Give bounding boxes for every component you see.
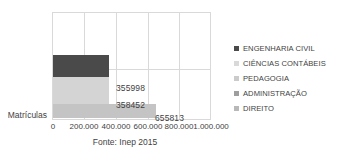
gridline-vertical (179, 13, 180, 119)
x-tick-label: 600.000 (134, 123, 163, 131)
legend-label: ADMINISTRAÇÃO (243, 90, 307, 98)
source-caption: Fonte: Inep 2015 (0, 138, 250, 147)
legend-swatch-icon (234, 46, 239, 51)
bar-ciencias-contabeis (53, 77, 109, 104)
legend-item-engenharia-civil[interactable]: ENGENHARIA CIVIL (234, 41, 337, 56)
x-axis-tick-labels: 0 200.000 400.000 600.000 800.000 1.000.… (0, 123, 337, 135)
legend-label: ENGENHARIA CIVIL (243, 45, 315, 53)
legend-swatch-icon (234, 91, 239, 96)
data-label-engenharia-civil: 355998 (116, 84, 145, 93)
x-tick-label: 1.000.000 (193, 123, 229, 131)
legend-label: PEDAGOGIA (243, 75, 289, 83)
x-tick-label: 0 (51, 123, 55, 131)
legend-label: CIÊNCIAS CONTÁBEIS (243, 60, 326, 68)
x-tick-label: 800.000 (165, 123, 194, 131)
chart-legend: ENGENHARIA CIVIL CIÊNCIAS CONTÁBEIS PEDA… (234, 41, 337, 116)
x-tick-label: 400.000 (102, 123, 131, 131)
category-axis-label: Matrículas (0, 111, 47, 120)
legend-swatch-icon (234, 76, 239, 81)
legend-swatch-icon (234, 106, 239, 111)
bar-engenharia-civil (53, 55, 109, 77)
legend-item-ciencias-contabeis[interactable]: CIÊNCIAS CONTÁBEIS (234, 56, 337, 71)
legend-swatch-icon (234, 61, 239, 66)
legend-item-pedagogia[interactable]: PEDAGOGIA (234, 71, 337, 86)
legend-label: DIREITO (243, 105, 274, 113)
legend-item-administracao[interactable]: ADMINISTRAÇÃO (234, 86, 337, 101)
bar-chart: 355998 358452 655813 Matrículas 0 200.00… (0, 0, 337, 155)
legend-item-direito[interactable]: DIREITO (234, 101, 337, 116)
x-tick-label: 200.000 (70, 123, 99, 131)
data-label-ciencias-contabeis: 358452 (116, 101, 145, 110)
